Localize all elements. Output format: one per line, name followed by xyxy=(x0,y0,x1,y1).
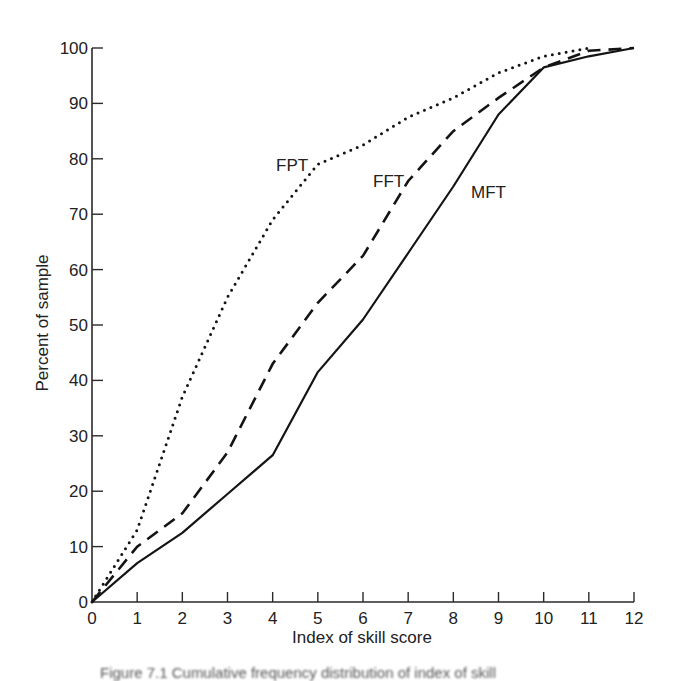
x-tick-label: 6 xyxy=(358,609,367,628)
figure-caption: Figure 7.1 Cumulative frequency distribu… xyxy=(100,664,679,681)
x-tick-label: 4 xyxy=(268,609,277,628)
x-axis-title: Index of skill score xyxy=(292,628,432,647)
x-tick-label: 5 xyxy=(313,609,322,628)
y-tick-label: 60 xyxy=(69,261,88,280)
series-label-fpt: FPT xyxy=(276,156,308,175)
series-line-fft xyxy=(92,48,634,602)
x-tick-label: 11 xyxy=(580,609,598,628)
y-tick-label: 70 xyxy=(69,205,88,224)
y-tick-label: 80 xyxy=(69,150,88,169)
y-tick-label: 40 xyxy=(69,371,88,390)
y-tick-label: 10 xyxy=(69,538,88,557)
y-tick-label: 90 xyxy=(69,94,88,113)
x-tick-label: 10 xyxy=(534,609,553,628)
x-tick-label: 12 xyxy=(625,609,644,628)
series-line-fpt xyxy=(92,48,589,602)
x-tick-label: 3 xyxy=(223,609,232,628)
y-tick-label: 20 xyxy=(69,482,88,501)
x-tick-label: 7 xyxy=(403,609,412,628)
y-tick-label: 50 xyxy=(69,316,88,335)
series-label-fft: FFT xyxy=(373,172,404,191)
y-tick-label: 30 xyxy=(69,427,88,446)
y-axis-title: Percent of sample xyxy=(33,254,52,391)
series-label-mft: MFT xyxy=(471,183,506,202)
x-tick-label: 2 xyxy=(178,609,187,628)
series-lines xyxy=(92,48,634,602)
x-tick-label: 1 xyxy=(132,609,141,628)
y-tick-label: 0 xyxy=(79,593,88,612)
y-tick-label: 100 xyxy=(60,39,88,58)
x-tick-label: 8 xyxy=(449,609,458,628)
x-tick-label: 0 xyxy=(87,609,96,628)
x-tick-label: 9 xyxy=(494,609,503,628)
